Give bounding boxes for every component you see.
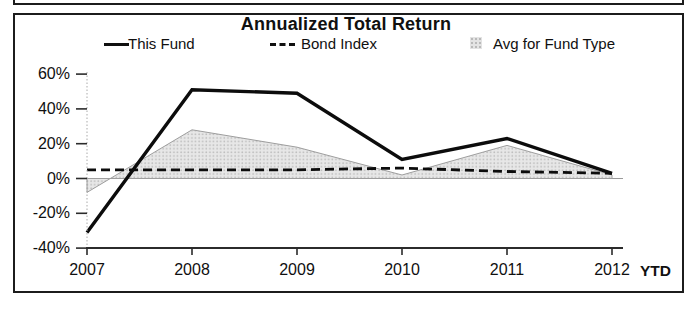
x-axis-tick-label: 2008: [162, 261, 222, 279]
x-axis-tick-label: 2007: [57, 261, 117, 279]
y-axis-tick-label: 0%: [18, 170, 70, 188]
x-axis-tick-label: 2011: [477, 261, 537, 279]
x-axis-ytd-label: YTD: [640, 262, 671, 280]
y-axis-tick-label: 60%: [18, 65, 70, 83]
y-axis-tick-label: -40%: [18, 239, 70, 257]
y-axis-tick-label: 20%: [18, 135, 70, 153]
x-axis-tick-label: 2012: [582, 261, 642, 279]
x-axis-tick-label: 2010: [372, 261, 432, 279]
x-axis-tick-label: 2009: [267, 261, 327, 279]
y-axis-tick-label: 40%: [18, 100, 70, 118]
report-page: Annualized Total Return This Fund Bond I…: [0, 0, 692, 309]
y-axis-tick-label: -20%: [18, 204, 70, 222]
